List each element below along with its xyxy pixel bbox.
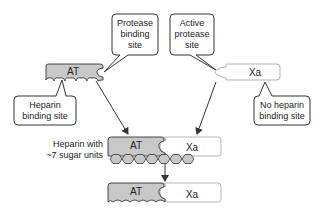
- callout-protease-binding-site: Protease binding site: [104, 14, 158, 72]
- sugar-unit-hexagon: [170, 155, 182, 164]
- callout-active-protease-site: Active protease site: [170, 14, 216, 70]
- callout-text: Protease: [117, 18, 153, 28]
- callout-no-heparin-binding-site: No heparin binding site: [254, 82, 310, 125]
- molecule-label-at: AT: [130, 140, 142, 151]
- callout-text: site: [128, 40, 142, 50]
- sugar-unit-hexagon: [122, 155, 134, 164]
- callout-text: binding: [120, 29, 149, 39]
- sugar-unit-hexagon: [158, 155, 170, 164]
- callout-text: binding site: [22, 111, 68, 121]
- sugar-unit-hexagon: [134, 155, 146, 164]
- antithrombin-molecule-complex: AT: [108, 137, 165, 156]
- arrow-xa-to-complex: [197, 82, 216, 134]
- molecule-label-at: AT: [67, 66, 79, 77]
- callout-text: No heparin: [260, 100, 304, 110]
- molecule-label-xa: Xa: [249, 67, 262, 78]
- factor-xa-molecule-top: Xa: [215, 64, 280, 80]
- callout-text: binding site: [259, 111, 305, 121]
- heparin-label: Heparin with: [53, 139, 103, 149]
- molecule-label-xa: Xa: [186, 142, 199, 153]
- callout-text: site: [185, 40, 199, 50]
- factor-xa-molecule-released: Xa: [160, 183, 221, 202]
- sugar-unit-hexagon: [182, 155, 194, 164]
- arrow-at-to-complex: [96, 81, 128, 134]
- antithrombin-heparin-diagram: Protease binding site Active protease si…: [0, 0, 324, 220]
- callout-text: protease: [174, 29, 209, 39]
- callout-text: Heparin: [29, 100, 61, 110]
- factor-xa-molecule-complex: Xa: [160, 137, 221, 156]
- molecule-label-at: AT: [130, 186, 142, 197]
- sugar-unit-hexagon: [146, 155, 158, 164]
- callout-heparin-binding-site: Heparin binding site: [14, 80, 76, 125]
- antithrombin-molecule-top: AT: [46, 64, 103, 81]
- sugar-unit-hexagon: [110, 155, 122, 164]
- molecule-label-xa: Xa: [186, 189, 199, 200]
- antithrombin-molecule-released: AT: [108, 183, 165, 202]
- heparin-label: ~7 sugar units: [46, 150, 103, 160]
- callout-text: Active: [180, 18, 205, 28]
